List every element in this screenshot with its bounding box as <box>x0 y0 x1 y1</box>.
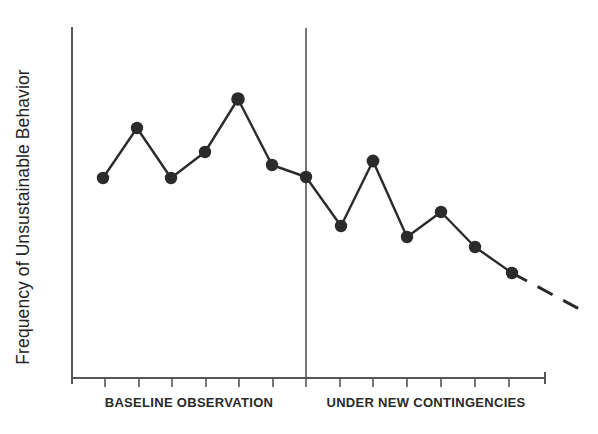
data-point-marker <box>165 172 177 184</box>
data-point-marker <box>506 267 518 279</box>
data-point-marker <box>367 155 380 168</box>
phase-label-baseline: BASELINE OBSERVATION <box>72 395 306 410</box>
data-point-marker <box>435 206 447 218</box>
data-point-marker <box>199 146 211 158</box>
data-point-marker <box>97 172 109 184</box>
data-point-marker <box>231 92 245 106</box>
data-point-marker <box>131 122 143 134</box>
chart-background <box>0 0 598 434</box>
chart-figure: Frequency of Unsustainable Behavior BASE… <box>0 0 598 434</box>
data-point-marker <box>266 159 278 171</box>
line-chart-canvas <box>0 0 598 434</box>
phase-label-under-new-contingencies: UNDER NEW CONTINGENCIES <box>306 395 546 410</box>
data-point-marker <box>469 241 481 253</box>
data-point-marker <box>300 171 312 183</box>
data-point-marker <box>401 231 413 243</box>
data-point-marker <box>335 220 347 232</box>
